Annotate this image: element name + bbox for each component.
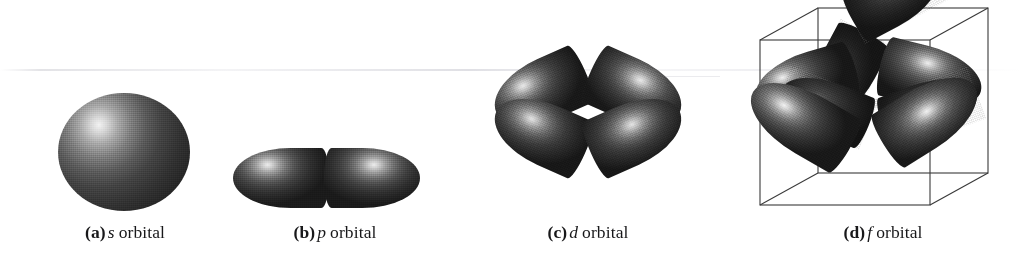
caption-d-orbital: (c)dorbital — [480, 222, 696, 243]
orbital-word-b: orbital — [326, 222, 376, 242]
orbital-word-c: orbital — [578, 222, 628, 242]
orbital-figure: (a)sorbital (b)porbital — [0, 0, 1021, 277]
orbital-word-a: orbital — [115, 222, 165, 242]
orbital-symbol-d: d — [567, 222, 578, 242]
caption-p-orbital: (b)porbital — [230, 222, 440, 243]
panel-label-d: (d) — [843, 222, 865, 242]
s-orbital-sphere — [58, 93, 190, 211]
p-orbital-lobe-left — [233, 148, 329, 208]
panel-p-orbital: (b)porbital — [230, 0, 440, 277]
p-orbital-lobe-right — [324, 148, 420, 208]
panel-f-orbital: (d)forbital — [745, 0, 1021, 277]
panel-s-orbital: (a)sorbital — [0, 0, 250, 277]
orbital-word-d: orbital — [872, 222, 922, 242]
grain-texture — [324, 148, 420, 208]
panel-label-b: (b) — [294, 222, 316, 242]
caption-f-orbital: (d)forbital — [745, 222, 1021, 243]
orbital-symbol-p: p — [315, 222, 326, 242]
orbital-symbol-s: s — [106, 222, 115, 242]
panel-label-c: (c) — [548, 222, 568, 242]
panel-d-orbital: (c)dorbital — [480, 0, 696, 277]
grain-texture — [58, 93, 190, 211]
panel-label-a: (a) — [85, 222, 106, 242]
caption-s-orbital: (a)sorbital — [0, 222, 250, 243]
grain-texture — [233, 148, 329, 208]
